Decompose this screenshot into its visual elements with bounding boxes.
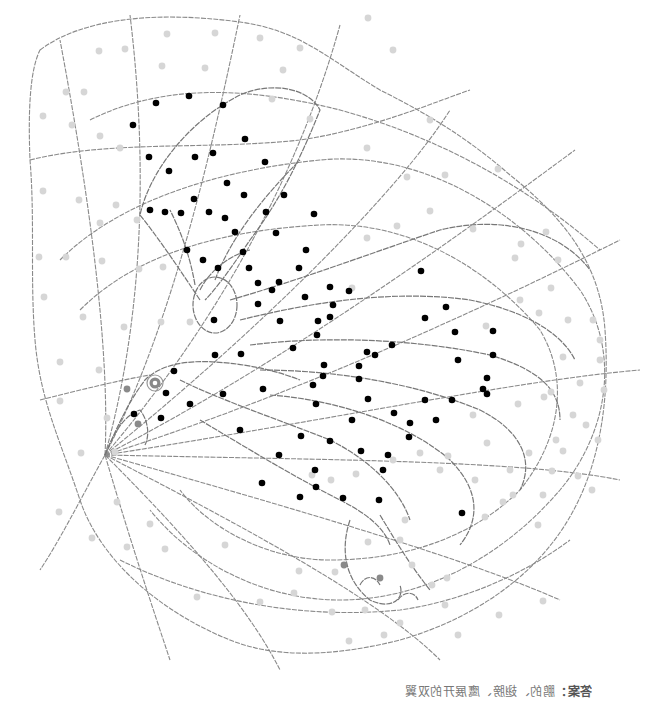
dot <box>36 254 43 261</box>
dot <box>496 612 503 619</box>
dot <box>57 398 64 405</box>
dot <box>389 342 396 349</box>
dot <box>97 220 104 227</box>
dot <box>517 297 524 304</box>
dot <box>484 391 491 398</box>
dot <box>536 310 543 317</box>
dot <box>449 397 456 404</box>
dot <box>346 288 353 295</box>
dot <box>260 386 267 393</box>
dot <box>263 209 270 216</box>
dot <box>276 279 283 286</box>
eagle-body <box>180 380 410 520</box>
dot <box>63 254 70 261</box>
dot <box>437 467 444 474</box>
dot <box>364 235 371 242</box>
dot <box>380 467 387 474</box>
dot <box>269 96 276 103</box>
dot <box>166 168 173 175</box>
dot <box>171 368 178 375</box>
dot <box>353 471 360 478</box>
dot <box>327 314 334 321</box>
dot <box>397 537 404 544</box>
dot <box>160 264 167 271</box>
dot <box>262 159 269 166</box>
dot <box>358 448 365 455</box>
eagle-talons <box>345 520 401 604</box>
dot <box>320 373 327 380</box>
dot <box>577 380 584 387</box>
dot <box>590 317 597 324</box>
dot <box>259 480 266 487</box>
dot <box>297 45 304 52</box>
dot <box>365 396 372 403</box>
dot <box>595 437 602 444</box>
dot <box>364 145 371 152</box>
dot <box>99 258 106 265</box>
dot <box>510 492 517 499</box>
eagle-hidden-picture <box>0 0 650 680</box>
dot <box>442 172 449 179</box>
dot <box>96 48 103 55</box>
dot <box>121 324 128 331</box>
dot <box>490 328 497 335</box>
dot <box>365 15 372 22</box>
dot <box>57 359 64 366</box>
dot <box>417 450 424 457</box>
dot <box>276 452 283 459</box>
dot <box>376 497 383 504</box>
dot <box>597 337 604 344</box>
dot <box>255 280 262 287</box>
dot <box>540 598 547 605</box>
dot <box>220 391 227 398</box>
dot <box>224 180 231 187</box>
dot <box>222 542 229 549</box>
dot <box>240 249 247 256</box>
dot <box>40 113 47 120</box>
eagle-outline <box>105 88 590 604</box>
dot <box>553 437 560 444</box>
dot <box>402 517 409 524</box>
dot <box>187 319 194 326</box>
dot <box>385 452 392 459</box>
dot <box>459 510 466 517</box>
dot <box>153 100 160 107</box>
eagle-right-wing <box>230 224 590 300</box>
dot <box>281 192 288 199</box>
dot <box>427 208 434 215</box>
dot <box>222 215 229 222</box>
dot <box>163 390 170 397</box>
dot <box>472 477 479 484</box>
dot <box>362 607 369 614</box>
eagle-head <box>105 362 300 455</box>
dot <box>257 35 264 42</box>
dot <box>280 67 287 74</box>
dot <box>291 590 298 597</box>
dot <box>303 247 310 254</box>
dot <box>445 453 452 460</box>
dot <box>178 210 185 217</box>
dot <box>507 467 514 474</box>
dot <box>200 257 207 264</box>
dot <box>184 247 191 254</box>
dot <box>210 150 217 157</box>
dot <box>330 302 337 309</box>
answer-label: 答案： <box>555 685 593 699</box>
dot <box>159 63 166 70</box>
dot <box>427 117 434 124</box>
dot <box>277 318 284 325</box>
dot <box>124 386 131 393</box>
dot <box>302 294 309 301</box>
dot <box>237 427 244 434</box>
dot <box>246 265 253 272</box>
dot <box>321 362 328 369</box>
dot <box>124 544 131 551</box>
dot <box>442 602 449 609</box>
dot <box>215 265 222 272</box>
dot <box>565 317 572 324</box>
dot <box>81 89 88 96</box>
dot <box>483 323 490 330</box>
dot <box>296 568 303 575</box>
dot <box>443 304 450 311</box>
dot <box>313 484 320 491</box>
